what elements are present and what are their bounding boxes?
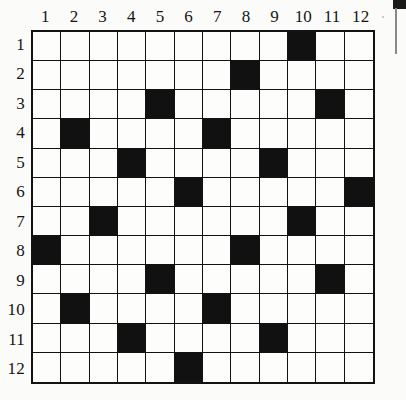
grid-cell-r11-c3[interactable]	[90, 324, 118, 353]
grid-cell-r4-c4[interactable]	[118, 119, 146, 148]
grid-cell-r6-c1[interactable]	[33, 178, 61, 207]
grid-cell-r4-c1[interactable]	[33, 119, 61, 148]
grid-cell-r5-c3[interactable]	[90, 149, 118, 178]
grid-cell-r7-c6[interactable]	[175, 207, 203, 236]
grid-cell-r2-c1[interactable]	[33, 61, 61, 90]
grid-cell-r8-c10[interactable]	[288, 236, 316, 265]
grid-cell-r7-c9[interactable]	[260, 207, 288, 236]
grid-cell-r8-c5[interactable]	[146, 236, 174, 265]
grid-cell-r9-c8[interactable]	[231, 265, 259, 294]
grid-cell-r12-c2[interactable]	[61, 353, 89, 382]
grid-cell-r12-c6[interactable]	[175, 353, 203, 382]
grid-cell-r12-c8[interactable]	[231, 353, 259, 382]
grid-cell-r3-c3[interactable]	[90, 90, 118, 119]
grid-cell-r8-c6[interactable]	[175, 236, 203, 265]
grid-cell-r7-c10[interactable]	[288, 207, 316, 236]
grid-cell-r6-c9[interactable]	[260, 178, 288, 207]
grid-cell-r11-c5[interactable]	[146, 324, 174, 353]
grid-cell-r9-c10[interactable]	[288, 265, 316, 294]
grid-cell-r4-c5[interactable]	[146, 119, 174, 148]
grid-cell-r12-c11[interactable]	[316, 353, 344, 382]
grid-cell-r1-c9[interactable]	[260, 32, 288, 61]
grid-cell-r9-c4[interactable]	[118, 265, 146, 294]
grid-cell-r8-c12[interactable]	[345, 236, 373, 265]
grid-cell-r4-c6[interactable]	[175, 119, 203, 148]
grid-cell-r8-c11[interactable]	[316, 236, 344, 265]
grid-cell-r3-c8[interactable]	[231, 90, 259, 119]
grid-cell-r8-c9[interactable]	[260, 236, 288, 265]
grid-cell-r1-c8[interactable]	[231, 32, 259, 61]
grid-cell-r1-c11[interactable]	[316, 32, 344, 61]
grid-cell-r10-c2[interactable]	[61, 294, 89, 323]
grid-cell-r8-c8[interactable]	[231, 236, 259, 265]
grid-cell-r5-c9[interactable]	[260, 149, 288, 178]
grid-cell-r1-c10[interactable]	[288, 32, 316, 61]
grid-cell-r6-c3[interactable]	[90, 178, 118, 207]
grid-cell-r4-c10[interactable]	[288, 119, 316, 148]
grid-cell-r2-c8[interactable]	[231, 61, 259, 90]
grid-cell-r7-c7[interactable]	[203, 207, 231, 236]
grid-cell-r11-c10[interactable]	[288, 324, 316, 353]
grid-cell-r9-c6[interactable]	[175, 265, 203, 294]
grid-cell-r12-c4[interactable]	[118, 353, 146, 382]
grid-cell-r10-c8[interactable]	[231, 294, 259, 323]
grid-cell-r9-c12[interactable]	[345, 265, 373, 294]
grid-cell-r2-c6[interactable]	[175, 61, 203, 90]
grid-cell-r7-c2[interactable]	[61, 207, 89, 236]
grid-cell-r6-c11[interactable]	[316, 178, 344, 207]
grid-cell-r11-c2[interactable]	[61, 324, 89, 353]
grid-cell-r10-c5[interactable]	[146, 294, 174, 323]
grid-cell-r2-c9[interactable]	[260, 61, 288, 90]
grid-cell-r11-c12[interactable]	[345, 324, 373, 353]
grid-cell-r2-c3[interactable]	[90, 61, 118, 90]
grid-cell-r6-c6[interactable]	[175, 178, 203, 207]
grid-cell-r12-c3[interactable]	[90, 353, 118, 382]
grid-cell-r10-c10[interactable]	[288, 294, 316, 323]
grid-cell-r10-c7[interactable]	[203, 294, 231, 323]
grid-cell-r6-c5[interactable]	[146, 178, 174, 207]
grid-cell-r11-c8[interactable]	[231, 324, 259, 353]
grid-cell-r5-c12[interactable]	[345, 149, 373, 178]
grid-cell-r7-c12[interactable]	[345, 207, 373, 236]
grid-cell-r8-c1[interactable]	[33, 236, 61, 265]
grid-cell-r6-c2[interactable]	[61, 178, 89, 207]
grid-cell-r12-c12[interactable]	[345, 353, 373, 382]
grid-cell-r12-c10[interactable]	[288, 353, 316, 382]
grid-cell-r7-c4[interactable]	[118, 207, 146, 236]
grid-cell-r2-c10[interactable]	[288, 61, 316, 90]
grid-cell-r7-c11[interactable]	[316, 207, 344, 236]
grid-cell-r9-c11[interactable]	[316, 265, 344, 294]
grid-cell-r3-c6[interactable]	[175, 90, 203, 119]
grid-cell-r8-c7[interactable]	[203, 236, 231, 265]
grid-cell-r1-c1[interactable]	[33, 32, 61, 61]
grid-cell-r7-c5[interactable]	[146, 207, 174, 236]
grid-cell-r7-c1[interactable]	[33, 207, 61, 236]
grid-cell-r4-c2[interactable]	[61, 119, 89, 148]
grid-cell-r4-c9[interactable]	[260, 119, 288, 148]
grid-cell-r5-c2[interactable]	[61, 149, 89, 178]
grid-cell-r4-c11[interactable]	[316, 119, 344, 148]
grid-cell-r9-c1[interactable]	[33, 265, 61, 294]
grid-cell-r11-c6[interactable]	[175, 324, 203, 353]
grid-cell-r10-c6[interactable]	[175, 294, 203, 323]
grid-cell-r3-c5[interactable]	[146, 90, 174, 119]
grid-cell-r1-c6[interactable]	[175, 32, 203, 61]
grid-cell-r11-c1[interactable]	[33, 324, 61, 353]
grid-cell-r3-c7[interactable]	[203, 90, 231, 119]
grid-cell-r7-c8[interactable]	[231, 207, 259, 236]
grid-cell-r1-c2[interactable]	[61, 32, 89, 61]
grid-cell-r5-c8[interactable]	[231, 149, 259, 178]
grid-cell-r12-c7[interactable]	[203, 353, 231, 382]
grid-cell-r2-c7[interactable]	[203, 61, 231, 90]
grid-cell-r10-c4[interactable]	[118, 294, 146, 323]
grid-cell-r5-c5[interactable]	[146, 149, 174, 178]
grid-cell-r11-c4[interactable]	[118, 324, 146, 353]
grid-cell-r1-c4[interactable]	[118, 32, 146, 61]
grid-cell-r9-c3[interactable]	[90, 265, 118, 294]
grid-cell-r10-c3[interactable]	[90, 294, 118, 323]
grid-cell-r3-c2[interactable]	[61, 90, 89, 119]
grid-cell-r9-c7[interactable]	[203, 265, 231, 294]
grid-cell-r5-c7[interactable]	[203, 149, 231, 178]
grid-cell-r6-c12[interactable]	[345, 178, 373, 207]
grid-cell-r4-c3[interactable]	[90, 119, 118, 148]
